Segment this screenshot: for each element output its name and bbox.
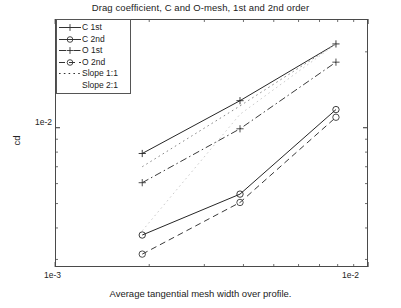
legend-item: C 2nd	[57, 34, 130, 46]
y-axis-title: cd	[11, 121, 22, 161]
legend-item: Slope 2:1	[57, 80, 130, 92]
legend-item: O 1st	[57, 45, 130, 57]
legend-item-label: O 2nd	[82, 57, 105, 68]
legend-sample-icon	[58, 34, 82, 45]
legend-sample-icon	[58, 57, 82, 68]
legend-item-label: O 1st	[82, 45, 102, 56]
figure-root: Drag coefficient, C and O-mesh, 1st and …	[0, 0, 401, 308]
x-tick-label-min: 1e-3	[44, 270, 61, 280]
legend-item-label: C 2nd	[82, 34, 105, 45]
legend-sample-icon	[58, 22, 82, 33]
legend-sample-icon	[58, 45, 82, 56]
legend-sample-icon	[58, 68, 82, 79]
legend-item-label: Slope 1:1	[82, 68, 118, 79]
legend-item: O 2nd	[57, 57, 130, 69]
x-axis-title: Average tangential mesh width over profi…	[0, 288, 401, 299]
legend-sample-icon	[58, 80, 82, 91]
legend: C 1st C 2nd O 1st O 2nd Slope 1:1 Slope …	[56, 19, 131, 94]
legend-item-label: C 1st	[82, 22, 102, 33]
legend-item: C 1st	[57, 22, 130, 34]
legend-item-label: Slope 2:1	[82, 80, 118, 91]
x-tick-label-max: 1e-2	[342, 270, 359, 280]
legend-item: Slope 1:1	[57, 68, 130, 80]
